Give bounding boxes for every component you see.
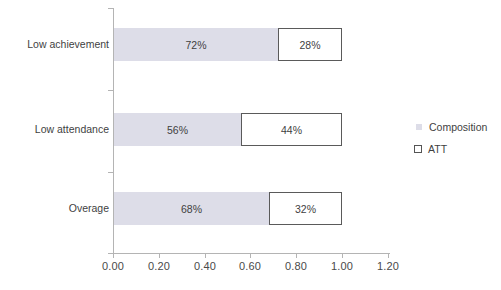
bar-segment-composition[interactable]: 68% [114, 192, 269, 225]
legend-item-att[interactable]: ATT [413, 138, 501, 160]
category-label-low-attendance: Low attendance [0, 123, 109, 135]
x-axis-tick [296, 254, 297, 258]
x-tick-label-0: 0.00 [91, 260, 135, 272]
legend-label-att: ATT [428, 143, 447, 155]
legend-swatch-outlined-square-icon [414, 145, 422, 153]
bar-row-low-attendance: 56% 44% [114, 113, 390, 146]
chart-legend: Composition ATT [413, 116, 501, 160]
x-axis-tick [205, 254, 206, 258]
x-tick-label-4: 0.80 [274, 260, 318, 272]
legend-item-composition[interactable]: Composition [413, 116, 501, 138]
bar-segment-att[interactable]: 44% [241, 113, 342, 146]
x-axis-line [113, 253, 390, 254]
x-tick-label-3: 0.60 [228, 260, 272, 272]
bar-chart: 0.00 0.20 0.40 0.60 0.80 1.00 1.20 Low a… [0, 0, 501, 290]
legend-label-composition: Composition [429, 121, 487, 133]
legend-swatch-filled-square-icon [416, 124, 422, 130]
bar-segment-composition[interactable]: 72% [114, 28, 278, 61]
bar-row-overage: 68% 32% [114, 192, 390, 225]
x-axis-tick [159, 254, 160, 258]
x-tick-label-6: 1.20 [366, 260, 410, 272]
x-axis-tick [388, 254, 389, 258]
x-tick-label-2: 0.40 [183, 260, 227, 272]
bar-row-low-achievement: 72% 28% [114, 28, 390, 61]
y-axis-tick [108, 172, 113, 173]
bar-segment-composition[interactable]: 56% [114, 113, 241, 146]
x-axis-tick [250, 254, 251, 258]
category-label-overage: Overage [0, 202, 109, 214]
bar-segment-att[interactable]: 32% [269, 192, 342, 225]
bar-segment-att[interactable]: 28% [278, 28, 342, 61]
x-axis-tick [342, 254, 343, 258]
x-tick-label-5: 1.00 [320, 260, 364, 272]
y-axis-tick [108, 90, 113, 91]
x-axis-tick [113, 254, 114, 258]
x-tick-label-1: 0.20 [137, 260, 181, 272]
y-axis-tick [108, 8, 113, 9]
category-label-low-achievement: Low achievement [0, 38, 109, 50]
